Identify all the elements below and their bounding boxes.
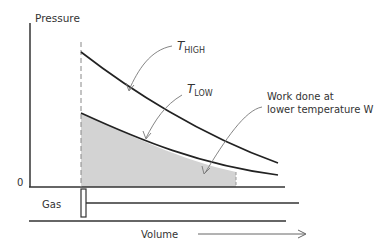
- t-low-label: TLOW: [187, 82, 213, 98]
- t-low-pointer-head: [143, 131, 151, 139]
- y-axis-label: Pressure: [35, 12, 80, 24]
- t-high-pointer-arrow: [129, 46, 172, 90]
- x-axis-label: Volume: [141, 229, 178, 240]
- t-high-subscript: HIGH: [184, 46, 205, 55]
- gas-label: Gas: [42, 199, 61, 210]
- t-high-label: THIGH: [177, 39, 205, 55]
- zero-label: 0: [17, 177, 23, 188]
- piston[interactable]: [81, 189, 86, 217]
- work-annotation-line2: lower temperature W: [267, 104, 374, 115]
- t-low-subscript: LOW: [194, 89, 212, 98]
- work-annotation-line1: Work done at: [267, 91, 334, 102]
- pv-diagram: Pressure 0 Gas Volume THIGH TLOW Work do…: [0, 0, 390, 251]
